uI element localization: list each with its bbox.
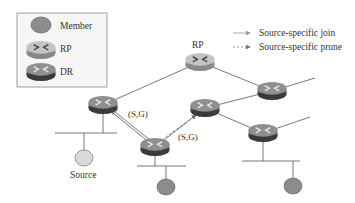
router-center-bottom: [140, 138, 169, 156]
router-left: [88, 96, 117, 114]
router-middle: [190, 99, 219, 117]
router-right-top: [257, 82, 286, 100]
legend-rp-label: RP: [60, 44, 72, 54]
pim-ssm-diagram: Member RP DR Source-specific join Source…: [0, 0, 355, 203]
member-host-center: [157, 179, 175, 195]
legend-dr-label: DR: [60, 67, 74, 77]
sg-join-label: (S,G): [128, 109, 148, 119]
rp-router: [185, 53, 214, 71]
legend-join-label: Source-specific join: [259, 28, 335, 38]
arrow-legend: Source-specific join Source-specific pru…: [233, 28, 342, 52]
sg-prune-label: (S,G): [178, 132, 198, 142]
dr-legend-icon: [26, 63, 55, 81]
member-legend-icon: [31, 17, 51, 33]
source-host: [75, 150, 93, 166]
rp-legend-icon: [26, 41, 55, 59]
legend-prune-label: Source-specific prune: [259, 42, 342, 52]
router-right-bottom: [248, 124, 277, 142]
legend-box: Member RP DR: [17, 13, 107, 87]
source-label: Source: [70, 170, 96, 180]
rp-label: RP: [192, 40, 204, 50]
member-host-right: [284, 178, 302, 194]
legend-member-label: Member: [60, 21, 93, 31]
